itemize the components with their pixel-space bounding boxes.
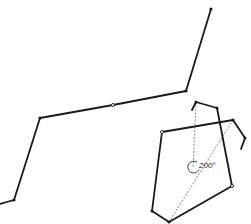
right-hook	[233, 120, 245, 149]
main-polyline	[0, 9, 211, 204]
joint-point	[184, 89, 187, 92]
vertex-open	[231, 185, 234, 188]
polygon-top-edge	[162, 120, 233, 132]
joint-point	[232, 119, 235, 122]
joint-point	[195, 101, 198, 104]
joint-point	[244, 137, 247, 140]
geometry-diagram	[0, 0, 251, 224]
joint-point	[12, 198, 15, 201]
angle-label: 200°	[199, 161, 216, 170]
joint-point	[168, 221, 171, 224]
endpoint	[209, 7, 212, 10]
vertex-open	[161, 131, 164, 134]
dashed-construction-line	[193, 102, 196, 168]
polygon-outline	[152, 108, 232, 222]
joint-point	[38, 116, 41, 119]
joint-point	[216, 107, 219, 110]
joint-point	[151, 210, 154, 213]
dashed-construction-line	[169, 120, 233, 222]
midpoint-open	[112, 104, 115, 107]
